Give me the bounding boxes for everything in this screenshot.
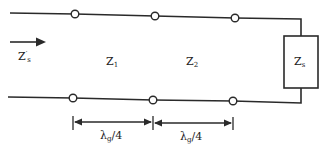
node-bottom-3	[229, 97, 237, 105]
dimension-2-label: λg/4	[180, 131, 202, 144]
node-top-3	[231, 14, 239, 22]
dimension-1-label: λg/4	[100, 130, 122, 143]
node-bottom-1	[69, 94, 77, 102]
node-bottom-2	[149, 96, 157, 104]
section-1-impedance-label: Z1	[106, 56, 118, 69]
load-impedance-label: Zs	[294, 56, 305, 69]
dimension-lines	[73, 116, 233, 130]
node-top-1	[71, 10, 79, 18]
node-top-2	[151, 12, 159, 20]
section-2-impedance-label: Z2	[186, 56, 198, 69]
circuit-drawing	[0, 0, 325, 144]
input-impedance-label: Z′s	[18, 51, 31, 64]
input-arrow-icon	[10, 38, 46, 47]
